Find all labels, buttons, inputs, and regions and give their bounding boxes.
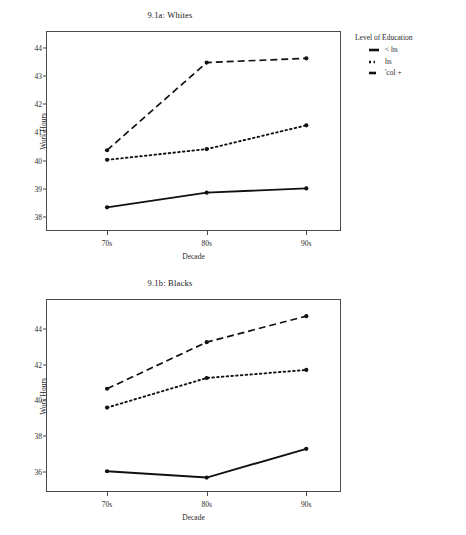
x-tick-mark bbox=[107, 491, 108, 496]
data-point-marker bbox=[205, 475, 209, 479]
y-tick-mark bbox=[43, 217, 47, 218]
legend-item-label: < hs bbox=[385, 46, 398, 54]
y-tick-mark bbox=[43, 400, 47, 401]
data-point-marker bbox=[304, 447, 308, 451]
y-tick-label: 40 bbox=[35, 156, 43, 165]
x-tick-label: 90s bbox=[301, 239, 311, 248]
figure-whites: 9.1a: Whites Work Hours Decade 383940414… bbox=[0, 0, 466, 268]
x-tick-mark bbox=[306, 230, 307, 235]
data-point-marker bbox=[205, 376, 209, 380]
data-point-marker bbox=[105, 406, 109, 410]
series-line bbox=[107, 125, 306, 160]
chart-title-a: 9.1a: Whites bbox=[0, 10, 340, 20]
data-point-marker bbox=[304, 56, 308, 60]
y-tick-mark bbox=[43, 47, 47, 48]
y-tick-label: 42 bbox=[35, 360, 43, 369]
data-point-marker bbox=[105, 469, 109, 473]
data-point-marker bbox=[205, 147, 209, 151]
figure-page: 9.1a: Whites Work Hours Decade 383940414… bbox=[0, 0, 466, 535]
lines-svg-a bbox=[47, 32, 340, 230]
legend-item-label: 'col + bbox=[385, 69, 402, 77]
y-tick-label: 36 bbox=[35, 468, 43, 477]
data-point-marker bbox=[304, 368, 308, 372]
series-line bbox=[107, 370, 306, 408]
y-tick-mark bbox=[43, 160, 47, 161]
x-tick-label: 90s bbox=[301, 500, 311, 509]
data-point-marker bbox=[105, 205, 109, 209]
legend-item[interactable]: 'col + bbox=[369, 69, 412, 77]
y-tick-mark bbox=[43, 104, 47, 105]
y-tick-mark bbox=[43, 472, 47, 473]
y-tick-mark bbox=[43, 132, 47, 133]
x-tick-mark bbox=[306, 491, 307, 496]
y-tick-mark bbox=[43, 188, 47, 189]
data-point-marker bbox=[205, 340, 209, 344]
x-axis-label-a: Decade bbox=[182, 252, 204, 261]
y-tick-label: 39 bbox=[35, 184, 43, 193]
legend-item[interactable]: < hs bbox=[369, 46, 412, 54]
y-tick-label: 42 bbox=[35, 100, 43, 109]
series-line bbox=[107, 58, 306, 150]
y-tick-label: 44 bbox=[35, 324, 43, 333]
y-tick-mark bbox=[43, 436, 47, 437]
data-point-marker bbox=[304, 314, 308, 318]
x-tick-mark bbox=[107, 230, 108, 235]
chart-title-b: 9.1b: Blacks bbox=[0, 278, 340, 288]
data-point-marker bbox=[304, 186, 308, 190]
y-tick-mark bbox=[43, 364, 47, 365]
x-tick-label: 80s bbox=[201, 239, 211, 248]
data-point-marker bbox=[105, 148, 109, 152]
x-tick-label: 70s bbox=[102, 239, 112, 248]
legend-item[interactable]: hs bbox=[369, 58, 412, 66]
legend-solid-line-icon bbox=[369, 46, 382, 54]
lines-svg-b bbox=[47, 300, 340, 491]
y-tick-mark bbox=[43, 75, 47, 76]
data-point-marker bbox=[304, 123, 308, 127]
legend-item-label: hs bbox=[385, 58, 392, 66]
y-tick-label: 38 bbox=[35, 432, 43, 441]
plot-frame-blacks: Work Hours Decade 363840424470s80s90s bbox=[46, 299, 341, 492]
y-tick-label: 44 bbox=[35, 43, 43, 52]
data-point-marker bbox=[105, 387, 109, 391]
y-tick-label: 40 bbox=[35, 396, 43, 405]
y-tick-mark bbox=[43, 328, 47, 329]
data-point-marker bbox=[205, 191, 209, 195]
legend-whites: Level of Education < hshs'col + bbox=[355, 33, 412, 81]
x-tick-label: 70s bbox=[102, 500, 112, 509]
x-axis-label-b: Decade bbox=[182, 513, 204, 522]
x-tick-label: 80s bbox=[201, 500, 211, 509]
series-line bbox=[107, 449, 306, 478]
data-point-marker bbox=[205, 60, 209, 64]
y-tick-label: 41 bbox=[35, 128, 43, 137]
legend-dotted-line-icon bbox=[369, 58, 382, 66]
plot-area-whites bbox=[47, 32, 340, 230]
x-tick-mark bbox=[207, 230, 208, 235]
legend-dashed-line-icon bbox=[369, 69, 382, 77]
y-tick-label: 43 bbox=[35, 71, 43, 80]
x-tick-mark bbox=[207, 491, 208, 496]
y-tick-label: 38 bbox=[35, 213, 43, 222]
legend-title-a: Level of Education bbox=[355, 33, 412, 42]
plot-area-blacks bbox=[47, 300, 340, 491]
plot-frame-whites: Work Hours Decade 3839404142434470s80s90… bbox=[46, 31, 341, 231]
figure-blacks: 9.1b: Blacks Work Hours Decade 363840424… bbox=[0, 268, 466, 535]
data-point-marker bbox=[105, 158, 109, 162]
